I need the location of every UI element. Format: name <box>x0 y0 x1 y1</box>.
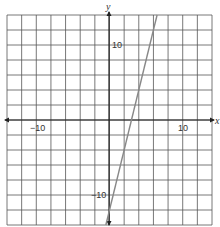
y-axis-label: y <box>105 1 111 12</box>
coordinate-plane: x y −10 10 10 −10 <box>0 0 220 227</box>
axes <box>4 11 215 226</box>
y-tick-label-neg10: −10 <box>91 190 106 200</box>
x-axis-left-arrow-icon <box>4 118 9 123</box>
x-tick-label-neg10: −10 <box>30 123 45 133</box>
y-tick-label-pos10: 10 <box>112 40 122 50</box>
x-axis-label: x <box>214 115 220 126</box>
x-tick-label-pos10: 10 <box>178 123 188 133</box>
